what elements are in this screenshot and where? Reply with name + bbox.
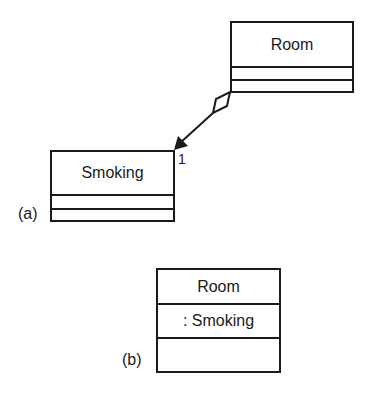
aggregation-diamond-icon bbox=[213, 92, 230, 113]
part-b-label: (b) bbox=[122, 351, 142, 369]
room-class-b-attributes: : Smoking bbox=[158, 305, 279, 339]
room-class-b-operations bbox=[158, 339, 279, 371]
room-class-b-name: Room bbox=[158, 270, 279, 305]
association-line bbox=[180, 113, 213, 143]
multiplicity-label: 1 bbox=[178, 151, 186, 167]
part-a-label: (a) bbox=[18, 205, 38, 223]
room-class-b: Room : Smoking bbox=[156, 268, 281, 373]
